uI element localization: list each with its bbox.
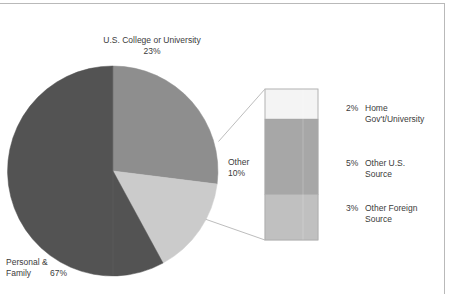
- pie-label-other-value: 10%: [228, 168, 249, 179]
- pie-label-us-college-name: U.S. College or University: [68, 35, 236, 46]
- legend-row-home-govt-university: 2% Home Gov't/University: [346, 103, 424, 124]
- bar-segment-other-us-source[interactable]: [265, 119, 318, 195]
- legend-label-other-foreign-source: Other Foreign Source: [365, 203, 417, 224]
- pie-label-personal-name-line1: Personal &: [6, 257, 67, 268]
- bar-segment-home-govt-university[interactable]: [265, 89, 318, 119]
- legend-label-home-govt-university: Home Gov't/University: [365, 103, 424, 124]
- legend-row-other-us-source: 5% Other U.S. Source: [346, 158, 405, 179]
- legend-row-other-foreign-source: 3% Other Foreign Source: [346, 203, 417, 224]
- pie-label-other: Other 10%: [228, 157, 249, 178]
- legend-value-other-foreign-source: 3%: [346, 203, 365, 214]
- pie-label-personal-value: 67%: [50, 268, 67, 279]
- pie-label-personal-name-line2: Family: [6, 268, 50, 279]
- pie-label-personal-and-family: Personal & Family 67%: [6, 257, 67, 278]
- callout-leader-line-bottom: [204, 219, 266, 241]
- pie-label-other-name: Other: [228, 157, 249, 168]
- pie-label-us-college-or-university: U.S. College or University 23%: [68, 35, 236, 56]
- pie-chart-figure: U.S. College or University 23% Other 10%…: [0, 0, 460, 297]
- pie-label-personal-line2: Family 67%: [6, 268, 67, 279]
- pie-slice-us-college-or-university[interactable]: [113, 66, 218, 184]
- legend-value-other-us-source: 5%: [346, 158, 365, 169]
- pie-label-us-college-value: 23%: [68, 46, 236, 57]
- bar-segment-other-foreign-source[interactable]: [265, 195, 318, 240]
- legend-label-other-us-source: Other U.S. Source: [365, 158, 405, 179]
- callout-leader-line-top: [219, 89, 266, 142]
- legend-value-home-govt-university: 2%: [346, 103, 365, 114]
